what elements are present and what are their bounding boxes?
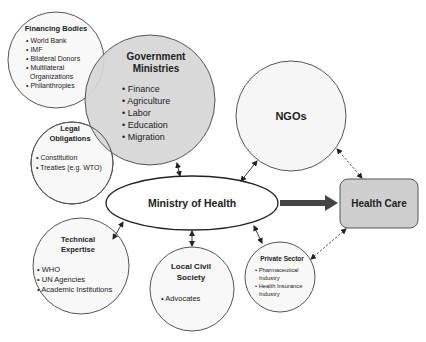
financing-item: • Bilateral Donors xyxy=(26,55,81,62)
civil-title-2: Society xyxy=(177,273,206,282)
financing-item: • Philanthropies xyxy=(26,82,75,90)
government-item: • Agriculture xyxy=(122,96,170,106)
private-item: Industry xyxy=(259,291,280,297)
private-item: • Pharmaceutical xyxy=(255,267,299,273)
health-care-title: Health Care xyxy=(351,198,407,209)
government-item: • Migration xyxy=(122,132,165,142)
ministry-of-health-node: Ministry of Health xyxy=(106,176,278,230)
arrow-private-moh xyxy=(254,226,262,243)
technical-expertise-node: Technical Expertise • WHO • UN Agencies … xyxy=(33,218,129,314)
arrow-ngo-healthcare xyxy=(337,149,362,178)
financing-title: Financing Bodies xyxy=(25,24,88,33)
private-item: Industry xyxy=(259,275,280,281)
legal-title-1: Legal xyxy=(60,124,80,133)
civil-item: • Advocates xyxy=(161,294,201,303)
legal-item: • Treaties (e.g. WTO) xyxy=(36,164,102,172)
technical-item: • Academic Institutions xyxy=(37,285,112,294)
government-item: • Labor xyxy=(122,108,151,118)
arrow-private-healthcare xyxy=(311,229,346,259)
arrow-ngo-moh xyxy=(241,161,257,181)
government-title-2: Ministries xyxy=(133,63,180,74)
health-care-node: Health Care xyxy=(340,179,418,228)
health-system-diagram: Financing Bodies • World Bank • IMF • Bi… xyxy=(0,0,426,342)
government-title-1: Government xyxy=(127,51,187,62)
government-item: • Finance xyxy=(122,84,160,94)
financing-item: • Multilateral xyxy=(26,64,65,71)
technical-title-1: Technical xyxy=(61,235,95,244)
technical-title-2: Expertise xyxy=(61,245,95,254)
ngos-node: NGOs xyxy=(236,61,346,171)
government-ministries-node: Government Ministries • Finance • Agricu… xyxy=(85,35,215,165)
main-arrow-moh-to-healthcare xyxy=(280,195,338,211)
financing-item: • IMF xyxy=(26,46,42,53)
financing-item: Organizations xyxy=(30,73,74,81)
financing-item: • World Bank xyxy=(26,37,67,44)
government-item: • Education xyxy=(122,120,168,130)
technical-item: • UN Agencies xyxy=(37,275,85,284)
private-item: • Health Insurance xyxy=(255,283,302,289)
ngos-title: NGOs xyxy=(275,110,306,122)
legal-item: • Constitution xyxy=(36,154,77,161)
civil-title-1: Local Civil xyxy=(171,262,211,271)
private-title: Private Sector xyxy=(260,255,304,262)
private-sector-node: Private Sector • Pharmaceutical Industry… xyxy=(245,242,315,312)
legal-title-2: Obligations xyxy=(49,134,90,143)
moh-title: Ministry of Health xyxy=(148,197,236,209)
local-civil-society-node: Local Civil Society • Advocates xyxy=(150,247,234,331)
arrow-gov-moh xyxy=(177,163,180,176)
technical-item: • WHO xyxy=(37,265,60,274)
